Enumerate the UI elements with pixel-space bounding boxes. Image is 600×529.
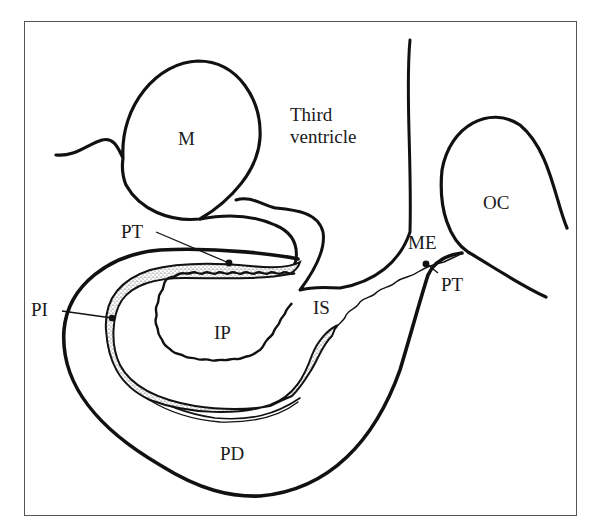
- pi-leader: [62, 311, 112, 318]
- label-mammillary-body: M: [178, 129, 195, 148]
- label-pars-tuberalis-upper: PT: [121, 222, 143, 241]
- label-median-eminence: ME: [408, 233, 437, 252]
- label-third-ventricle-line2: ventricle: [290, 126, 356, 148]
- pt-upper-leader: [156, 232, 229, 263]
- label-third-ventricle: Third ventricle: [290, 104, 356, 148]
- pt-upper-dot: [226, 260, 232, 266]
- pituitary-diagram: [0, 0, 600, 529]
- label-infundibular-process: IP: [214, 323, 231, 342]
- label-third-ventricle-line1: Third: [290, 104, 356, 126]
- label-pars-tuberalis-right: PT: [441, 275, 463, 294]
- label-pars-intermedia: PI: [31, 300, 48, 319]
- label-infundibular-stem: IS: [313, 298, 330, 317]
- label-optic-chiasma: OC: [483, 193, 509, 212]
- label-pars-distalis: PD: [220, 444, 244, 463]
- intermediate-lobe-wavy-edge: [155, 272, 295, 361]
- mammillary-body-outline: [56, 61, 260, 219]
- pi-dot: [109, 315, 114, 320]
- pt-right-dot: [423, 261, 429, 267]
